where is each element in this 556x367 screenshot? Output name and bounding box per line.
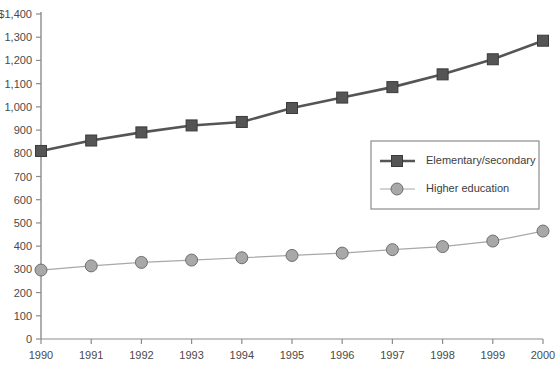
y-axis-tick-label: 600 [14,194,32,206]
data-point-marker [36,145,47,156]
x-axis-tick-label: 2000 [531,349,555,361]
data-point-marker [336,247,348,259]
series-line [41,41,543,151]
y-axis-tick-label: 1,200 [4,54,32,66]
x-axis-tick-label: 1992 [129,349,153,361]
y-axis-tick-group: $1,4001,3001,2001,1001,00090080070060050… [0,8,41,345]
legend-marker-square [392,156,403,167]
legend-label: Elementary/secondary [426,154,536,166]
data-point-marker [287,103,298,114]
data-point-marker [387,82,398,93]
x-axis-tick-group: 1990199119921993199419951996199719981999… [29,339,555,361]
data-point-marker [136,127,147,138]
x-axis-tick-label: 1990 [29,349,53,361]
y-axis-tick-label: 700 [14,171,32,183]
x-axis-tick-label: 1995 [280,349,304,361]
y-axis-tick-label: 400 [14,240,32,252]
data-point-marker [437,241,449,253]
data-point-marker [538,35,549,46]
data-point-marker [186,120,197,131]
x-axis-tick-label: 1993 [179,349,203,361]
legend-marker-circle [391,183,403,195]
y-axis-tick-label: 0 [26,333,32,345]
y-axis-tick-label: 800 [14,147,32,159]
legend-label: Higher education [426,182,509,194]
data-point-marker [386,244,398,256]
data-point-marker [537,225,549,237]
y-axis-tick-label: 1,000 [4,101,32,113]
data-point-marker [186,254,198,266]
data-point-marker [86,135,97,146]
data-point-marker [487,54,498,65]
x-axis-tick-label: 1999 [481,349,505,361]
data-point-marker [85,260,97,272]
data-point-marker [337,92,348,103]
x-axis-tick-label: 1997 [380,349,404,361]
y-axis-tick-label: $1,400 [0,8,32,20]
data-point-marker [236,116,247,127]
y-axis-tick-label: 300 [14,263,32,275]
y-axis-tick-label: 200 [14,287,32,299]
line-chart: $1,4001,3001,2001,1001,00090080070060050… [0,0,556,367]
chart-canvas: $1,4001,3001,2001,1001,00090080070060050… [0,0,556,367]
y-axis-tick-label: 500 [14,217,32,229]
y-axis-tick-label: 1,100 [4,78,32,90]
x-axis-tick-label: 1996 [330,349,354,361]
data-point-marker [487,235,499,247]
data-point-marker [135,256,147,268]
x-axis-tick-label: 1998 [430,349,454,361]
legend-box [371,141,539,209]
chart-legend: Elementary/secondaryHigher education [371,141,539,209]
series-elementary-secondary [36,35,549,156]
x-axis-tick-label: 1991 [79,349,103,361]
data-point-marker [236,252,248,264]
data-point-marker [437,69,448,80]
y-axis-tick-label: 900 [14,124,32,136]
y-axis-tick-label: 1,300 [4,31,32,43]
x-axis-tick-label: 1994 [230,349,254,361]
y-axis-tick-label: 100 [14,310,32,322]
series-higher-education [35,225,549,276]
data-point-marker [35,264,47,276]
data-point-marker [286,249,298,261]
